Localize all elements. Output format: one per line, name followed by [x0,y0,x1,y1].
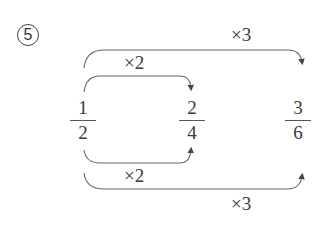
top-inner-arrow [84,76,191,92]
bottom-outer-arrow [84,173,302,189]
arrows-diagram [0,0,334,225]
numerator: 2 [179,98,205,118]
fraction-3-6: 3 6 [285,98,311,143]
top-inner-label: ×2 [124,53,144,72]
top-outer-label: ×3 [231,25,251,44]
fraction-2-4: 2 4 [179,98,205,143]
bottom-inner-label: ×2 [124,166,144,185]
bottom-outer-label: ×3 [231,194,251,213]
denominator: 2 [70,123,96,143]
fraction-bar [70,120,96,121]
denominator: 4 [179,123,205,143]
fraction-1-2: 1 2 [70,98,96,143]
top-outer-arrow [84,50,302,68]
fraction-bar [179,120,205,121]
numerator: 1 [70,98,96,118]
bottom-inner-arrow [84,150,191,163]
fraction-bar [285,120,311,121]
numerator: 3 [285,98,311,118]
denominator: 6 [285,123,311,143]
